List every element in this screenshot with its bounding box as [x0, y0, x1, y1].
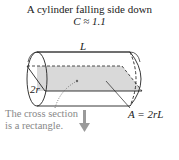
- length-label: L: [80, 40, 86, 52]
- area-label: A = 2rL: [128, 108, 163, 120]
- diameter-label: 2r: [30, 83, 40, 95]
- drag-coefficient: C ≈ 1.1: [0, 15, 179, 27]
- cross-section-rectangle: [37, 66, 142, 91]
- caption-line-1: The cross section: [5, 108, 78, 119]
- falling-arrow: [83, 110, 86, 124]
- length-bracket: [28, 52, 140, 62]
- diagram-title: A cylinder falling side down: [0, 3, 179, 15]
- caption-line-2: is a rectangle.: [5, 120, 63, 131]
